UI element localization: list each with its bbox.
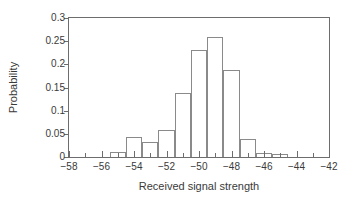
x-axis-minor-tick — [85, 153, 86, 157]
y-axis-tick-label: 0.2 — [51, 59, 65, 69]
y-axis-tick-label: 0.05 — [46, 129, 65, 139]
histogram-bar — [191, 50, 207, 157]
bars-group — [69, 18, 329, 157]
x-axis-minor-tick — [280, 153, 281, 157]
x-axis-tick-label: −46 — [256, 161, 273, 172]
x-axis-tick — [264, 151, 265, 157]
y-axis-tick-label: 0.25 — [46, 36, 65, 46]
x-axis-tick-label: −52 — [158, 161, 175, 172]
y-axis-title: Probability — [6, 17, 20, 158]
x-axis-tick — [297, 151, 298, 157]
y-axis-tick-label: 0.1 — [51, 106, 65, 116]
x-axis-tick-label: −42 — [321, 161, 338, 172]
x-axis-tick-label: −54 — [126, 161, 143, 172]
x-axis-tick — [134, 151, 135, 157]
histogram-figure: 00.050.10.150.20.250.3 −58−56−54−52−50−4… — [0, 0, 351, 204]
histogram-bar — [223, 70, 239, 157]
x-axis-minor-tick — [118, 153, 119, 157]
x-axis-tick — [167, 151, 168, 157]
x-axis-tick-label: −58 — [61, 161, 78, 172]
x-axis-tick — [69, 151, 70, 157]
x-axis-tick — [232, 151, 233, 157]
histogram-bar — [175, 93, 191, 157]
x-axis-tick — [102, 151, 103, 157]
histogram-bar — [207, 37, 223, 157]
x-axis-title: Received signal strength — [68, 180, 330, 192]
x-axis-minor-tick — [150, 153, 151, 157]
x-axis-tick-label: −56 — [93, 161, 110, 172]
x-axis-tick-label: −50 — [191, 161, 208, 172]
x-axis-tick — [199, 151, 200, 157]
x-axis-minor-tick — [183, 153, 184, 157]
x-axis-tick — [329, 151, 330, 157]
x-axis-tick-label: −48 — [223, 161, 240, 172]
x-axis-minor-tick — [313, 153, 314, 157]
x-axis-minor-tick — [248, 153, 249, 157]
plot-area: 00.050.10.150.20.250.3 −58−56−54−52−50−4… — [68, 17, 330, 158]
y-axis-tick-label: 0.3 — [51, 13, 65, 23]
y-axis-tick-label: 0.15 — [46, 83, 65, 93]
x-axis-tick-label: −44 — [288, 161, 305, 172]
x-axis-minor-tick — [215, 153, 216, 157]
